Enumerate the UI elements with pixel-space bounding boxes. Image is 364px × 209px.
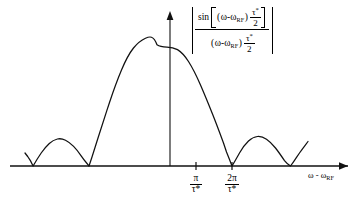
- tick-label-pi-over-tau: π τ*: [182, 174, 210, 195]
- denominator-two: 2: [244, 43, 255, 54]
- denominator-paren-close: ): [238, 38, 242, 48]
- abs-bar-right: [272, 7, 273, 54]
- sinc-curve: [25, 37, 308, 166]
- x-axis-label: ω - ωRF: [308, 170, 334, 181]
- numerator-tau-star: τ*: [251, 7, 260, 17]
- x-axis-label-main: ω - ω: [308, 170, 326, 180]
- formula-fraction: sin ( ω - ωRF ) τ* 2 ( ω - ωRF ): [195, 7, 269, 54]
- denominator-rf-subscript: RF: [230, 42, 238, 49]
- numerator-paren-close: ): [244, 12, 248, 22]
- tick1-denominator: τ*: [190, 184, 203, 195]
- sinc-spectrum-figure: sin ( ω - ωRF ) τ* 2 ( ω - ωRF ): [0, 0, 364, 209]
- formula-numerator: sin ( ω - ωRF ) τ* 2: [195, 7, 269, 29]
- numerator-two: 2: [250, 17, 261, 28]
- numerator-star: *: [256, 6, 259, 13]
- tick1-numerator: π: [190, 174, 203, 184]
- bracket-close-icon: [261, 7, 266, 28]
- tick2-denominator: τ*: [225, 184, 239, 195]
- sinc-formula: sin ( ω - ωRF ) τ* 2 ( ω - ωRF ): [189, 7, 275, 54]
- denominator-omega-rf: ωRF: [224, 38, 238, 49]
- x-axis-arrowhead: [339, 162, 348, 169]
- tick2-numerator: 2π: [225, 174, 239, 184]
- frac-pi-over-tau: π τ*: [190, 174, 203, 195]
- sin-label: sin: [198, 12, 210, 22]
- abs-bar-left: [192, 7, 193, 54]
- denominator-tau-fraction: τ* 2: [245, 33, 254, 54]
- denominator-tau-star: τ*: [245, 33, 254, 43]
- y-axis-arrowhead: [167, 11, 174, 20]
- denominator-star: *: [250, 32, 253, 39]
- numerator-omega-rf: ωRF: [230, 12, 244, 23]
- x-axis-label-subscript: RF: [326, 174, 334, 181]
- numerator-rf-subscript: RF: [236, 16, 244, 23]
- formula-denominator: ( ω - ωRF ) τ* 2: [208, 30, 257, 53]
- tick-label-two-pi-over-tau: 2π τ*: [217, 174, 247, 195]
- frac-two-pi-over-tau: 2π τ*: [225, 174, 239, 195]
- bracket-open-icon: [211, 7, 216, 28]
- numerator-tau-fraction: τ* 2: [251, 7, 260, 28]
